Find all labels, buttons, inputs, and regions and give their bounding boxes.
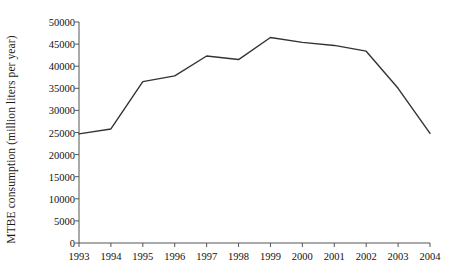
chart-figure: MTBE consumption (million liters per yea… [0, 0, 462, 279]
x-tick-label: 1993 [69, 251, 90, 262]
x-tick-label: 1996 [164, 251, 185, 262]
x-tick-label: 2003 [388, 251, 409, 262]
x-tick-label: 2002 [356, 251, 377, 262]
x-tick-label: 1998 [228, 251, 249, 262]
x-tick-label: 1997 [196, 251, 217, 262]
x-tick-label: 2001 [324, 251, 345, 262]
x-tick-label: 1999 [260, 251, 281, 262]
x-tick-label: 1995 [132, 251, 153, 262]
x-axis-tick-labels: 1993199419951996199719981999200020012002… [0, 0, 462, 279]
x-tick-label: 2004 [420, 251, 441, 262]
x-tick-label: 2000 [292, 251, 313, 262]
x-tick-label: 1994 [100, 251, 121, 262]
